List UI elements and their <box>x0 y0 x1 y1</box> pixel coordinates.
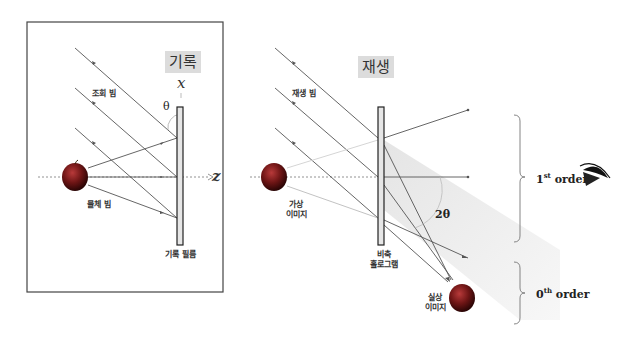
x-axis-label: x <box>177 74 185 92</box>
hologram-label: 비축 홀로그램 <box>370 250 398 270</box>
object-beam-label: 물체 빔 <box>87 200 111 210</box>
virtual-image-label: 가상 이미지 <box>286 200 306 220</box>
first-order-label: 1st order <box>536 171 588 186</box>
real-image-label: 실상 이미지 <box>425 293 445 313</box>
recording-film <box>177 107 183 245</box>
reference-beam-label: 조회 빔 <box>92 89 116 99</box>
z-axis-label: z <box>212 167 221 185</box>
reference-beam <box>75 48 177 138</box>
real-image-apple-icon <box>449 284 475 312</box>
off-axis-hologram <box>378 107 384 245</box>
two-theta-label: 2θ <box>435 208 450 221</box>
object-beam <box>88 138 177 168</box>
theta-label: θ <box>163 100 170 113</box>
film-label: 기록 필름 <box>165 250 196 260</box>
zeroth-order-label: 0th order <box>536 286 589 301</box>
reconstruction-beam-label: 재생 빔 <box>292 89 316 99</box>
reconstruction-title: 재생 <box>358 56 394 78</box>
object-apple-icon <box>62 160 88 191</box>
first-order-beam <box>384 110 468 138</box>
recording-title: 기록 <box>165 51 201 73</box>
reference-beam <box>75 88 177 177</box>
holography-diagram: 기록 x θ 조회 빔 물체 빔 기록 필름 z 재생 재생 빔 가상 이미지 … <box>0 0 632 342</box>
reconstruction-beam <box>275 88 378 177</box>
virtual-image-apple-icon <box>261 163 287 191</box>
